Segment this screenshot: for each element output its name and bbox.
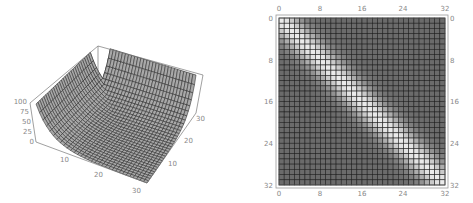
tick-label: 8 <box>269 57 273 65</box>
tick-label: 0 <box>269 15 273 23</box>
z-tick-label: 25 <box>23 128 32 136</box>
y-tick-label: 10 <box>168 160 177 168</box>
tick-label: 0 <box>277 5 281 13</box>
tick-label: 8 <box>450 57 454 65</box>
z-tick-label: 100 <box>14 98 27 106</box>
top-ticks: 0 8 16 24 32 <box>277 5 450 13</box>
surface-3d-plot: 100 75 50 25 0 10 20 30 30 20 10 <box>0 0 240 203</box>
y-tick-label: 20 <box>184 137 193 145</box>
tick-label: 16 <box>450 98 459 106</box>
right-ticks: 0 8 16 24 32 <box>450 15 459 190</box>
tick-label: 32 <box>441 5 450 13</box>
tick-label: 16 <box>358 5 367 13</box>
tick-label: 8 <box>318 190 322 198</box>
tick-label: 24 <box>399 5 408 13</box>
z-tick-label: 75 <box>20 108 29 116</box>
bottom-ticks: 0 8 16 24 32 <box>277 190 450 198</box>
z-tick-label: 0 <box>30 138 34 146</box>
z-tick-label: 50 <box>22 118 31 126</box>
tick-label: 24 <box>450 140 459 148</box>
y-tick-label: 30 <box>196 115 205 123</box>
tick-label: 32 <box>441 190 450 198</box>
density-heatmap-plot: 0 8 16 24 32 0 8 16 24 32 0 8 16 24 32 0… <box>250 0 473 203</box>
heatmap-cells <box>279 18 445 185</box>
tick-label: 16 <box>358 190 367 198</box>
tick-label: 16 <box>264 98 273 106</box>
left-ticks: 0 8 16 24 32 <box>264 15 273 190</box>
tick-label: 32 <box>450 182 459 190</box>
x-tick-label: 10 <box>60 156 69 164</box>
tick-label: 0 <box>450 15 454 23</box>
tick-label: 24 <box>264 140 273 148</box>
tick-label: 32 <box>264 182 273 190</box>
z-axis-ticks: 100 75 50 25 0 <box>14 98 34 146</box>
x-tick-label: 20 <box>94 171 103 179</box>
x-tick-label: 30 <box>132 187 141 195</box>
tick-label: 8 <box>318 5 322 13</box>
tick-label: 0 <box>277 190 281 198</box>
tick-label: 24 <box>399 190 408 198</box>
